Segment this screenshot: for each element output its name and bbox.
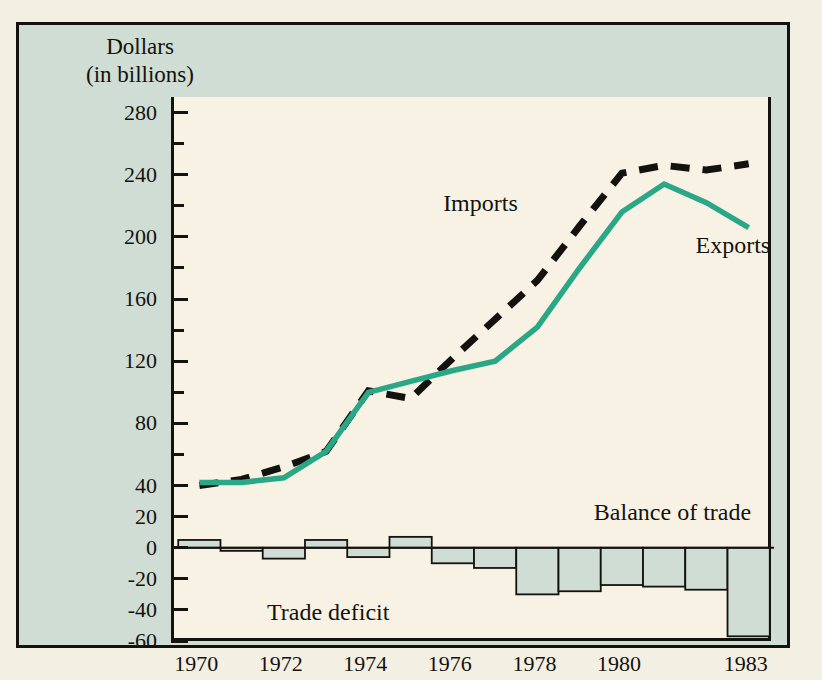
y-tick-major [171,608,188,611]
balance-bar [685,548,727,590]
x-tick-label: 1970 [159,653,233,675]
y-tick-label: 200 [65,226,157,248]
y-tick-minor [171,391,184,394]
axis-title: Dollars (in billions) [65,33,215,89]
y-tick-label: 20 [65,506,157,528]
series-line-exports [199,184,748,482]
plot-svg [174,97,774,641]
x-tick-label: 1974 [328,653,402,675]
y-tick-label: 280 [65,102,157,124]
figure-frame: Dollars (in billions) Imports Exports Ba… [16,22,790,648]
axis-title-line-1: Dollars [65,33,215,61]
imports-series-label: Imports [443,191,518,215]
y-tick-major [171,546,188,549]
y-tick-major [171,640,188,643]
balance-bar [559,548,601,592]
balance-bar [474,548,516,568]
y-tick-minor [171,329,184,332]
y-tick-minor [171,453,184,456]
y-tick-major [171,235,188,238]
y-tick-label: 0 [65,537,157,559]
balance-of-trade-label: Balance of trade [594,500,751,524]
y-tick-major [171,111,188,114]
y-tick-major [171,173,188,176]
balance-bar [305,540,347,548]
y-tick-label: 40 [65,475,157,497]
x-tick-label: 1972 [244,653,318,675]
x-tick-label: 1978 [497,653,571,675]
plot-panel: Imports Exports Balance of trade Trade d… [171,97,771,641]
y-tick-label: 160 [65,288,157,310]
y-tick-major [171,515,188,518]
balance-bar [643,548,685,587]
y-tick-major [171,422,188,425]
x-tick-label: 1976 [413,653,487,675]
y-tick-major [171,577,188,580]
axis-title-line-2: (in billions) [65,61,215,89]
y-tick-major [171,484,188,487]
y-tick-minor [171,142,184,145]
y-tick-label: 240 [65,164,157,186]
y-tick-major [171,360,188,363]
balance-bar [389,537,431,548]
balance-bar [263,548,305,559]
y-tick-label: -60 [65,630,157,652]
balance-bar [516,548,558,595]
y-tick-label: -20 [65,568,157,590]
x-tick-label: 1980 [582,653,656,675]
x-tick-label: 1983 [709,653,783,675]
balance-bar [347,548,389,557]
exports-series-label: Exports [695,233,770,257]
balance-bar [432,548,474,564]
y-tick-label: -40 [65,599,157,621]
balance-bar [728,548,770,637]
y-tick-minor [171,204,184,207]
y-tick-minor [171,266,184,269]
y-tick-major [171,298,188,301]
balance-bar [601,548,643,585]
trade-deficit-label: Trade deficit [267,600,389,624]
y-tick-label: 80 [65,412,157,434]
y-tick-label: 120 [65,350,157,372]
